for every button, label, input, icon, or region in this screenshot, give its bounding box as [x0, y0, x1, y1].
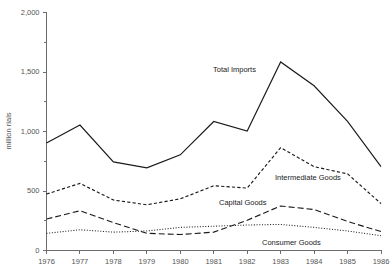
- y-axis: 05001,0001,5002,000: [21, 8, 47, 255]
- x-tick-label: 1986: [373, 257, 390, 266]
- y-tick-label: 1,000: [21, 127, 40, 136]
- y-tick-label: 500: [27, 186, 40, 195]
- x-tick-label: 1983: [272, 257, 289, 266]
- series-group: [47, 62, 382, 236]
- series-line-total-imports: [47, 62, 382, 168]
- series-label-group: Total ImportsIntermediate GoodsCapital G…: [213, 65, 341, 247]
- x-tick-label: 1982: [239, 257, 256, 266]
- series-label-capital-goods: Capital Goods: [219, 198, 267, 207]
- series-label-total-imports: Total Imports: [213, 65, 256, 74]
- x-tick-label: 1984: [306, 257, 323, 266]
- y-tick-label: 2,000: [21, 8, 40, 17]
- chart-container: 05001,0001,5002,000 19761977197819791980…: [0, 0, 391, 277]
- x-tick-label: 1978: [105, 257, 122, 266]
- x-tick-group: 1976197719781979198019811982198319841985…: [38, 250, 389, 266]
- x-tick-label: 1979: [139, 257, 156, 266]
- line-chart: 05001,0001,5002,000 19761977197819791980…: [0, 0, 391, 277]
- y-tick-group: 05001,0001,5002,000: [21, 8, 47, 255]
- y-tick-label: 0: [35, 246, 39, 255]
- x-tick-label: 1976: [38, 257, 55, 266]
- y-tick-label: 1,500: [21, 67, 40, 76]
- series-label-consumer-goods: Consumer Goods: [262, 238, 321, 247]
- x-axis: 1976197719781979198019811982198319841985…: [38, 250, 389, 266]
- series-label-intermediate-goods: Intermediate Goods: [275, 173, 341, 182]
- series-line-capital-goods: [47, 206, 382, 235]
- x-tick-label: 1977: [72, 257, 89, 266]
- y-axis-title: million rials: [4, 112, 13, 149]
- x-tick-label: 1985: [339, 257, 356, 266]
- x-tick-label: 1980: [172, 257, 189, 266]
- x-tick-label: 1981: [205, 257, 222, 266]
- series-line-consumer-goods: [47, 224, 382, 235]
